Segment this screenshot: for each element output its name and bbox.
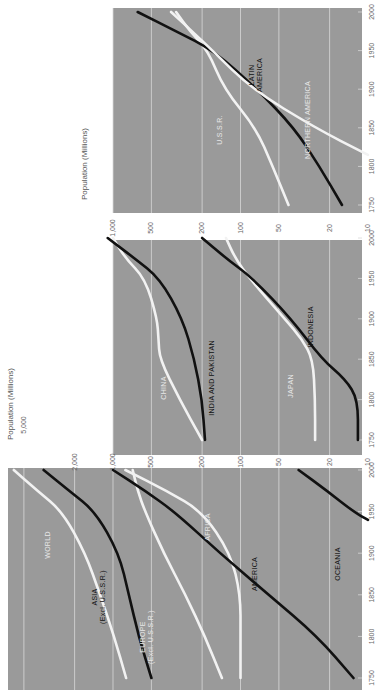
series-label-latin-america: LATIN [248,65,255,86]
x-tick-label: 1950 [368,504,375,520]
x-tick-label: 1800 [368,629,375,645]
x-tick-label: 1950 [368,43,375,59]
series-label-asia-excl-u-s-s-r: ASIA [91,588,98,605]
y-tick-label: 10 [364,458,371,466]
series-label-asia-excl-u-s-s-r: (Excl. U.S.S.R.) [99,570,107,624]
series-label-china: CHINA [160,376,167,399]
series-label-japan: JAPAN [287,374,294,398]
series-label-northern-america: NORTHERN AMERICA [304,81,311,159]
series-label-oceania: OCEANIA [334,547,341,581]
series-label-india-and-pakistan: INDIA AND PAKISTAN [208,340,215,416]
series-label-indonesia: INDONESIA [307,306,314,347]
y-tick-label: 2,000 [71,453,78,471]
y-tick-label: 10 [364,224,371,232]
y-tick-label: 1,000 [109,453,116,471]
y-tick-label: 100 [237,456,244,468]
x-tick-label: 1750 [368,670,375,686]
y-tick-label: 50 [275,224,282,232]
x-tick-label: 1800 [368,159,375,175]
x-tick-label: 1950 [368,271,375,287]
series-label-america: AMERICA [251,557,258,591]
series-label-u-s-s-r: U.S.S.R. [216,115,223,145]
x-tick-label: 2000 [368,4,375,20]
x-tick-label: 1750 [368,432,375,448]
x-tick-label: 1800 [368,392,375,408]
y-axis-title: Population (Millions) [80,128,89,200]
x-tick-label: 1850 [368,351,375,367]
x-tick-label: 1850 [368,587,375,603]
y-tick-label: 1,000 [109,219,116,237]
series-label-africa: AFRICA [204,513,211,540]
y-tick-label: 200 [198,222,205,234]
plot-background [113,8,362,213]
y-tick-label: 5,000 [20,416,27,434]
series-label-europe-excl-u-s-s-r: (Excl. U.S.S.R.) [147,610,155,664]
y-tick-label: 500 [147,456,154,468]
y-tick-label: 100 [237,222,244,234]
y-tick-label: 20 [326,224,333,232]
y-tick-label: 50 [275,458,282,466]
series-label-europe-excl-u-s-s-r: EUROPE [139,621,146,652]
chart-panel-3: 1750180018501900195020001,00050020010050… [109,4,375,237]
y-tick-label: 200 [198,456,205,468]
population-growth-figure: 1750180018501900195020005,0002,000Popula… [0,0,383,696]
y-axis-title: Population (Millions) [6,368,15,440]
x-tick-label: 1900 [368,81,375,97]
y-tick-label: 500 [147,222,154,234]
y-tick-label: 20 [326,458,333,466]
x-tick-label: 1850 [368,120,375,136]
x-tick-label: 1750 [368,197,375,213]
x-tick-label: 1900 [368,311,375,327]
series-label-latin-america: AMERICA [256,58,263,92]
series-label-world: WORLD [44,531,51,559]
x-tick-label: 1900 [368,545,375,561]
